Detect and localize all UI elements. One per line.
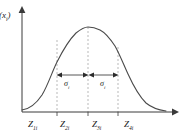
zone-label-z2-subscript: 2i	[65, 125, 69, 131]
gaussian-membership-figure: (xi) Z1i Z2i Z3i Z4i σi σi	[0, 0, 182, 136]
x-axis-arrow-icon	[172, 109, 179, 116]
sigma-label-right: σi	[100, 80, 105, 91]
y-axis-label: (xi)	[0, 11, 11, 22]
dashed-reference-lines	[57, 27, 118, 112]
x-axis-ticks	[57, 112, 118, 116]
zone-label-z3-subscript: 3i	[97, 125, 101, 131]
plot-canvas	[0, 0, 182, 136]
sigma-label-left: σi	[64, 80, 69, 91]
zone-label-z2: Z2i	[60, 120, 69, 131]
sigma-span-right	[89, 72, 119, 77]
sigma-label-right-subscript: i	[104, 85, 105, 90]
zone-label-z1: Z1i	[28, 120, 37, 131]
zone-label-z3: Z3i	[92, 120, 101, 131]
y-axis-arrow-icon	[19, 6, 26, 13]
sigma-span-left	[57, 72, 89, 77]
zone-label-z4: Z4i	[124, 120, 133, 131]
zone-label-z1-subscript: 1i	[33, 125, 37, 131]
membership-curve	[22, 27, 166, 111]
sigma-label-left-subscript: i	[68, 85, 69, 90]
zone-label-z4-subscript: 4i	[129, 125, 133, 131]
sigma-span-right-arrowhead-start-icon	[89, 72, 95, 77]
